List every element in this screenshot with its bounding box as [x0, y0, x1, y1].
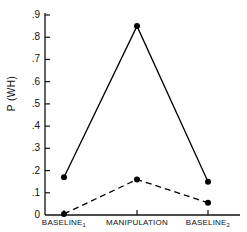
- data-point-marker: [61, 211, 67, 217]
- data-point-marker: [134, 23, 140, 29]
- x-tick-label-subscript: 1: [83, 222, 87, 228]
- plot-area: [0, 0, 247, 232]
- x-axis-ticks: [64, 210, 208, 215]
- x-tick-label: BASELINE1: [42, 218, 86, 227]
- axis-lines: [45, 13, 240, 215]
- data-point-marker: [205, 200, 211, 206]
- y-axis-ticks: [45, 15, 50, 193]
- x-tick-label: BASELINE2: [186, 218, 230, 227]
- series-line-dashed: [64, 179, 208, 213]
- data-point-marker: [205, 179, 211, 185]
- data-point-marker: [134, 176, 140, 182]
- data-series-layer: [61, 23, 211, 217]
- x-tick-label-subscript: 2: [227, 222, 231, 228]
- x-tick-label: MANIPULATION: [106, 218, 168, 227]
- data-point-marker: [61, 174, 67, 180]
- chart-figure: P (WH) 0.1.2.3.4.5.6.7.8.9 BASELINE1MANI…: [0, 0, 247, 232]
- series-line-solid: [64, 26, 208, 182]
